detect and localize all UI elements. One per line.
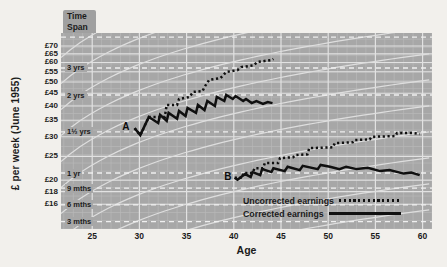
y-tick-label: £16 [24,199,58,209]
point-label: B [224,171,231,182]
time-span-label: 1 yr [65,169,82,178]
point-label: A [122,121,129,132]
time-span-label: 1½ yrs [65,127,93,136]
x-tick-label: 60 [413,231,433,241]
x-tick-label: 35 [177,231,197,241]
time-span-header-line1: Time [67,11,96,22]
x-tick-label: 30 [129,231,149,241]
time-span-label: 3 yrs [65,63,87,72]
x-tick-label: 45 [271,231,291,241]
x-tick-label: 50 [318,231,338,241]
x-tick-label: 40 [224,231,244,241]
time-span-label: 6 mths [65,200,93,209]
y-tick-label: £30 [24,132,58,142]
solid-line-sample [329,212,401,215]
earnings-age-chart-figure: £ per week (June 1955) Time Span £70£65£… [0,0,447,267]
x-axis-title: Age [61,244,432,256]
legend-label-corrected: Corrected earnings [243,209,324,219]
legend-row-corrected: Corrected earnings [243,208,401,219]
legend-row-uncorrected: Uncorrected earnings [243,195,401,206]
y-tick-label: £55 [24,67,58,77]
y-axis-title: £ per week (June 1955) [10,59,21,209]
y-tick-label: £50 [24,77,58,87]
legend: Uncorrected earnings Corrected earnings [243,195,401,219]
y-tick-label: £45 [24,88,58,98]
dotted-line-sample [339,199,401,202]
time-span-label: 2 yrs [65,91,87,100]
y-tick-label: £40 [24,101,58,111]
time-span-label: 9 mths [65,184,93,193]
y-tick-label: £18 [24,187,58,197]
time-span-label: 3 mths [65,217,93,226]
x-tick-label: 25 [82,231,102,241]
x-tick-label: 55 [365,231,385,241]
y-tick-label: £20 [24,175,58,185]
legend-label-uncorrected: Uncorrected earnings [243,196,334,206]
y-tick-label: £25 [24,151,58,161]
y-tick-label: £35 [24,115,58,125]
